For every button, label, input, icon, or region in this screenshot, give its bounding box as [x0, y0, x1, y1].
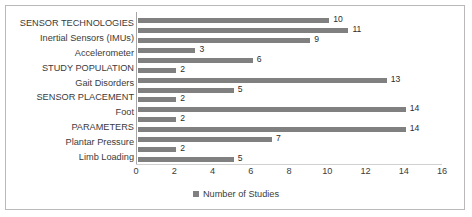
- x-tick-label: 6: [248, 166, 253, 176]
- bar-row[interactable]: 3: [138, 48, 444, 53]
- bar-row[interactable]: 14: [138, 127, 444, 132]
- bar-row[interactable]: 11: [138, 28, 444, 33]
- category-label: SENSOR PLACEMENT: [12, 92, 134, 102]
- bar-row[interactable]: 2: [138, 117, 444, 122]
- bar-value-label: 7: [272, 133, 281, 143]
- bar[interactable]: [138, 147, 176, 152]
- bar-value-label: 2: [176, 64, 185, 74]
- bar[interactable]: [138, 38, 310, 43]
- bar[interactable]: [138, 127, 406, 132]
- bar-row[interactable]: 13: [138, 78, 444, 83]
- category-label: Plantar Pressure: [12, 137, 134, 147]
- category-label: Accelerometer: [12, 48, 134, 58]
- x-tick-label: 16: [437, 166, 447, 176]
- bar-row[interactable]: 7: [138, 137, 444, 142]
- bar[interactable]: [138, 107, 406, 112]
- bar-value-label: 14: [406, 103, 420, 113]
- bar[interactable]: [138, 117, 176, 122]
- bar-value-label: 5: [234, 153, 243, 163]
- x-tick-label: 12: [360, 166, 370, 176]
- x-tick-label: 8: [286, 166, 291, 176]
- chart-legend: Number of Studies: [14, 188, 458, 199]
- bar[interactable]: [138, 78, 387, 83]
- bar[interactable]: [138, 48, 195, 53]
- bar-row[interactable]: 14: [138, 107, 444, 112]
- bar[interactable]: [138, 137, 272, 142]
- bar-value-label: 13: [387, 74, 401, 84]
- bar-row[interactable]: 9: [138, 38, 444, 43]
- category-label: Inertial Sensors (IMUs): [12, 33, 134, 43]
- axis-baseline: [136, 164, 442, 165]
- bar-row[interactable]: 10: [138, 18, 444, 23]
- category-label: Foot: [12, 107, 134, 117]
- value-axis: 0246810121416: [136, 166, 442, 182]
- category-label: Gait Disorders: [12, 78, 134, 88]
- bar-value-label: 6: [253, 54, 262, 64]
- bar-value-label: 2: [176, 113, 185, 123]
- bar-row[interactable]: 2: [138, 68, 444, 73]
- x-tick-label: 10: [322, 166, 332, 176]
- legend-swatch-icon: [193, 191, 199, 197]
- category-label: SENSOR TECHNOLOGIES: [12, 18, 134, 28]
- category-axis: SENSOR TECHNOLOGIESInertial Sensors (IMU…: [14, 12, 136, 164]
- bar[interactable]: [138, 97, 176, 102]
- bar-row[interactable]: 2: [138, 97, 444, 102]
- x-tick-label: 0: [133, 166, 138, 176]
- bar[interactable]: [138, 157, 234, 162]
- bar-value-label: 14: [406, 123, 420, 133]
- bar[interactable]: [138, 68, 176, 73]
- bar[interactable]: [138, 88, 234, 93]
- bar[interactable]: [138, 18, 329, 23]
- bar-value-label: 3: [195, 44, 204, 54]
- bar-row[interactable]: 6: [138, 58, 444, 63]
- bar-value-label: 2: [176, 143, 185, 153]
- bar-value-label: 5: [234, 84, 243, 94]
- bar-value-label: 9: [310, 34, 319, 44]
- bar-row[interactable]: 5: [138, 157, 444, 162]
- bar-value-label: 11: [348, 24, 361, 34]
- bar-row[interactable]: 2: [138, 147, 444, 152]
- x-tick-label: 14: [399, 166, 409, 176]
- category-label: STUDY POPULATION: [12, 63, 134, 73]
- bar-value-label: 2: [176, 93, 185, 103]
- bar-row[interactable]: 5: [138, 88, 444, 93]
- category-label: PARAMETERS: [12, 122, 134, 132]
- plot-area: SENSOR TECHNOLOGIESInertial Sensors (IMU…: [14, 12, 458, 172]
- category-label: Limb Loading: [12, 152, 134, 162]
- chart-frame: SENSOR TECHNOLOGIESInertial Sensors (IMU…: [5, 5, 465, 210]
- x-tick-label: 4: [210, 166, 215, 176]
- bar[interactable]: [138, 58, 253, 63]
- bars-region: 10119362135214214725: [136, 12, 442, 164]
- x-tick-label: 2: [172, 166, 177, 176]
- bar-value-label: 10: [329, 14, 343, 24]
- bar[interactable]: [138, 28, 348, 33]
- legend-label: Number of Studies: [203, 189, 279, 199]
